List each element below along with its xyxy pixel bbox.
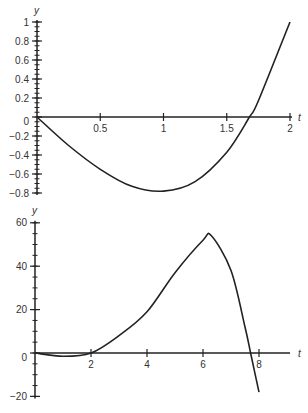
chart-bottom: 6040200−202468 y t <box>10 205 302 402</box>
y-tick-label: 0.6 <box>15 55 29 66</box>
x-tick-label: 1.5 <box>220 123 234 134</box>
chart-top: 10.80.60.40.20−0.2−0.4−0.6−0.80.511.52 y… <box>9 5 302 199</box>
x-tick-label: 8 <box>256 359 262 370</box>
chart-bottom-axes <box>35 221 290 399</box>
chart-bottom-x-axis-label: t <box>298 348 302 359</box>
y-tick-label: 0 <box>21 352 27 363</box>
x-tick-label: 6 <box>200 359 206 370</box>
y-tick-label: 20 <box>16 304 28 315</box>
y-tick-label: −0.8 <box>9 188 29 199</box>
chart-bottom-ticks: 6040200−202468 <box>10 217 262 402</box>
y-tick-label: −20 <box>10 391 27 402</box>
x-tick-label: 2 <box>88 359 94 370</box>
y-tick-label: −0.2 <box>9 131 29 142</box>
y-tick-label: 0 <box>23 116 29 127</box>
chart-top-ticks: 10.80.60.40.20−0.2−0.4−0.6−0.80.511.52 <box>9 17 293 199</box>
chart-top-y-axis-label: y <box>33 5 40 16</box>
y-tick-label: 0.4 <box>15 74 29 85</box>
y-tick-label: −0.4 <box>9 150 29 161</box>
chart-bottom-y-axis-label: y <box>31 205 38 216</box>
y-tick-label: 1 <box>23 17 29 28</box>
y-tick-label: 40 <box>16 261 28 272</box>
y-tick-label: −0.6 <box>9 169 29 180</box>
x-tick-label: 4 <box>144 359 150 370</box>
y-tick-label: 0.2 <box>15 93 29 104</box>
chart-top-x-axis-label: t <box>298 112 302 123</box>
y-tick-label: 0.8 <box>15 36 29 47</box>
chart-top-curve <box>37 22 290 191</box>
chart-top-axes <box>37 20 292 195</box>
x-tick-label: 0.5 <box>93 123 107 134</box>
figure: 10.80.60.40.20−0.2−0.4−0.6−0.80.511.52 y… <box>0 0 308 413</box>
x-tick-label: 1 <box>161 123 167 134</box>
y-tick-label: 60 <box>16 217 28 228</box>
x-tick-label: 2 <box>287 123 293 134</box>
